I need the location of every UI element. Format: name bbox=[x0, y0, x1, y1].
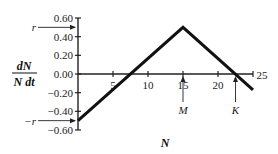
y-tick-label: 0.60 bbox=[54, 12, 74, 24]
x-tick-label: 10 bbox=[143, 79, 155, 91]
y-tick-label: 0.00 bbox=[54, 68, 74, 80]
y-axis-label-numerator: dN bbox=[17, 59, 33, 73]
annotation-label: K bbox=[231, 104, 240, 116]
axes bbox=[75, 18, 253, 130]
annotation-label: −r bbox=[24, 115, 36, 127]
arrow-right-icon bbox=[70, 118, 76, 123]
y-tick-label: 0.20 bbox=[54, 49, 74, 61]
annotation-label: r bbox=[32, 21, 37, 33]
labels: 0.600.400.200.00−0.20−0.40−0.60510152025… bbox=[12, 12, 268, 150]
y-tick-label: −0.60 bbox=[48, 124, 74, 136]
annotation-label: M bbox=[177, 104, 188, 116]
y-tick-label: −0.40 bbox=[48, 105, 74, 117]
y-axis-label-denominator: N dt bbox=[13, 75, 36, 89]
y-tick-label: 0.40 bbox=[54, 31, 74, 43]
x-axis-label: N bbox=[160, 136, 171, 150]
y-tick-label: −0.20 bbox=[48, 87, 74, 99]
x-tick-label: 20 bbox=[213, 79, 225, 91]
chart: 0.600.400.200.00−0.20−0.40−0.60510152025… bbox=[0, 0, 278, 154]
x-tick-label: 25 bbox=[257, 69, 269, 81]
arrow-right-icon bbox=[70, 25, 76, 30]
